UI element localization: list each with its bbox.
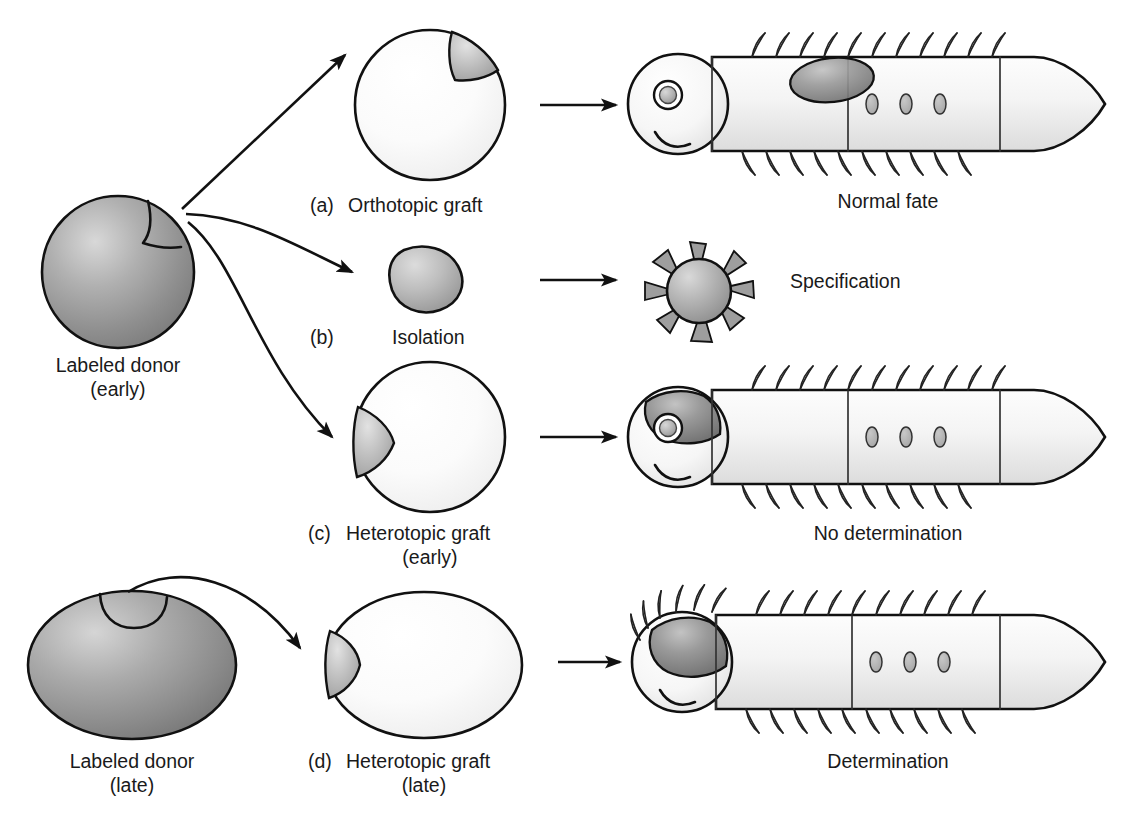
outcome-a-label: Normal fate xyxy=(838,190,939,212)
outcome-c-label: No determination xyxy=(814,522,963,544)
ciliated-ball-group xyxy=(645,242,754,342)
donor-early-sphere xyxy=(42,196,194,348)
larva-c-spot-3 xyxy=(934,427,946,447)
row-c-group: (c) Heterotopic graft (early) xyxy=(308,362,1105,568)
heterotopic-graft-late-host xyxy=(325,592,522,738)
arrow-donor-to-a xyxy=(182,55,345,209)
larva-c-ventral-setae xyxy=(742,484,971,508)
row-d-group: (d) Heterotopic graft (late) xyxy=(308,585,1105,796)
label-b-tag: (b) xyxy=(310,326,334,348)
ciliated-ball-body xyxy=(667,259,731,323)
label-d-sub: (late) xyxy=(402,774,446,796)
label-a-tag: (a) xyxy=(310,194,334,216)
larva-no-determination xyxy=(628,366,1105,508)
larva-a-eye-pupil xyxy=(660,87,677,104)
graft-patch-a xyxy=(449,32,498,81)
label-c-sub: (early) xyxy=(402,546,457,568)
label-d-tag: (d) xyxy=(308,750,332,772)
donor-late-group: Labeled donor (late) xyxy=(28,591,236,796)
arrow-donor-to-b xyxy=(186,214,352,272)
donor-early-group: Labeled donor (early) xyxy=(42,196,194,400)
larva-normal-fate xyxy=(628,33,1105,175)
larva-d-spot-1 xyxy=(870,652,882,672)
larva-a-spot-2 xyxy=(900,94,912,114)
label-d-name: Heterotopic graft xyxy=(346,750,491,772)
label-a-name: Orthotopic graft xyxy=(348,194,483,216)
larva-d-dorsal-setae xyxy=(756,591,985,615)
larva-a-dorsal-setae xyxy=(752,33,1005,57)
larva-a-spot-1 xyxy=(866,94,878,114)
figure-root: Labeled donor (early) (a) Orthotopic gra… xyxy=(0,0,1128,814)
outcome-d-label: Determination xyxy=(827,750,948,772)
label-c-tag: (c) xyxy=(308,522,331,544)
larva-determination xyxy=(622,585,1105,733)
larva-d-ventral-setae xyxy=(746,709,975,733)
larva-d-spot-2 xyxy=(904,652,916,672)
donor-late-label-line1: Labeled donor xyxy=(70,750,195,772)
larva-d-spot-3 xyxy=(938,652,950,672)
larva-c-spot-1 xyxy=(866,427,878,447)
larva-c-dorsal-setae xyxy=(752,366,1005,390)
outcome-b-label: Specification xyxy=(790,270,901,292)
larva-a-ventral-setae xyxy=(742,151,971,175)
donor-late-ellipse xyxy=(28,591,236,739)
donor-early-label-line2: (early) xyxy=(90,378,145,400)
label-c-name: Heterotopic graft xyxy=(346,522,491,544)
heterotopic-graft-early-host xyxy=(353,362,505,512)
donor-early-label-line1: Labeled donor xyxy=(56,354,181,376)
diagram-canvas: Labeled donor (early) (a) Orthotopic gra… xyxy=(0,0,1128,814)
label-b-name: Isolation xyxy=(392,326,465,348)
donor-late-label-line2: (late) xyxy=(110,774,154,796)
row-a-group: (a) Orthotopic graft xyxy=(310,30,1105,216)
larva-a-spot-3 xyxy=(934,94,946,114)
row-b-group: (b) Isolation Specification xyxy=(310,242,901,348)
isolated-blastomere xyxy=(389,247,462,313)
larva-c-spot-2 xyxy=(900,427,912,447)
larva-c-eye-pupil xyxy=(660,420,677,437)
orthotopic-graft-host xyxy=(355,30,505,180)
